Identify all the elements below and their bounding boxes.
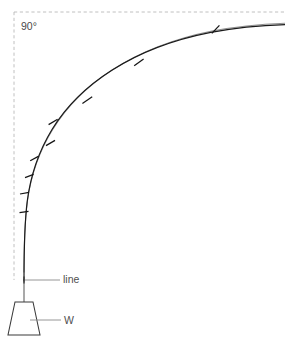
tick-mark xyxy=(20,211,29,212)
weight-label: W xyxy=(64,315,74,326)
line-callout-leader xyxy=(24,277,60,284)
tick-mark xyxy=(134,59,143,66)
weight-trapezoid xyxy=(8,302,40,335)
reference-lines-group xyxy=(14,12,285,280)
tick-mark xyxy=(82,97,92,104)
diagram-svg xyxy=(0,0,285,340)
line-label: line xyxy=(63,274,79,285)
tick-mark xyxy=(20,192,29,194)
curve-black xyxy=(24,25,285,281)
curve-gray xyxy=(24,23,285,272)
angle-label: 90° xyxy=(21,21,37,32)
diagram-canvas: 90° line W xyxy=(0,0,285,340)
tick-mark xyxy=(46,140,55,145)
curve-tick-marks-group xyxy=(20,25,220,212)
